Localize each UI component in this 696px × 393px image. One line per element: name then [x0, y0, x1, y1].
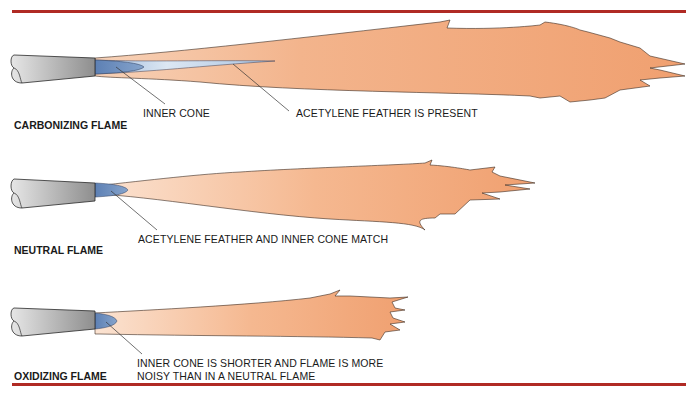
acetylene-feather-callout: ACETYLENE FEATHER IS PRESENT: [296, 107, 478, 120]
torch-tip: [11, 308, 95, 336]
neutral-flame-illustration: [11, 160, 535, 230]
neutral-flame-title: NEUTRAL FLAME: [14, 244, 103, 256]
carbonizing-flame-illustration: [11, 20, 685, 111]
outer-flame: [95, 290, 408, 340]
inner-cone-callout: INNER CONE: [143, 107, 210, 120]
feather-cone-match-callout: ACETYLENE FEATHER AND INNER CONE MATCH: [138, 233, 388, 246]
carbonizing-flame-title: CARBONIZING FLAME: [14, 119, 127, 131]
oxidizing-flame-illustration: [11, 290, 408, 354]
torch-tip: [11, 179, 95, 208]
outer-flame: [95, 160, 535, 230]
torch-tip: [11, 55, 95, 83]
oxidizing-flame-title: OXIDIZING FLAME: [14, 370, 107, 382]
flame-diagram: [0, 0, 696, 393]
shorter-cone-callout-line2: NOISY THAN IN A NEUTRAL FLAME: [137, 370, 315, 383]
shorter-cone-callout-line1: INNER CONE IS SHORTER AND FLAME IS MORE: [137, 357, 383, 370]
